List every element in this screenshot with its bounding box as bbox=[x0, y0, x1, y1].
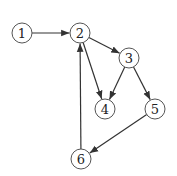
node-label: 4 bbox=[101, 102, 109, 117]
node-5: 5 bbox=[145, 99, 165, 119]
edge-3-to-4 bbox=[109, 67, 124, 99]
edge-6-to-2 bbox=[80, 43, 81, 149]
node-label: 1 bbox=[18, 26, 26, 41]
node-label: 6 bbox=[77, 152, 85, 167]
directed-graph-diagram: 123456 bbox=[0, 0, 177, 176]
node-label: 5 bbox=[151, 102, 159, 117]
node-label: 3 bbox=[125, 51, 133, 66]
node-2: 2 bbox=[70, 23, 90, 43]
node-4: 4 bbox=[95, 99, 115, 119]
node-6: 6 bbox=[71, 149, 91, 169]
node-label: 2 bbox=[76, 26, 84, 41]
node-1: 1 bbox=[12, 23, 32, 43]
edge-2-to-3 bbox=[89, 38, 120, 54]
edge-5-to-6 bbox=[90, 115, 147, 154]
edge-2-to-4 bbox=[83, 42, 102, 99]
edge-3-to-5 bbox=[134, 67, 151, 100]
node-3: 3 bbox=[119, 48, 139, 68]
nodes-layer: 123456 bbox=[12, 23, 165, 169]
